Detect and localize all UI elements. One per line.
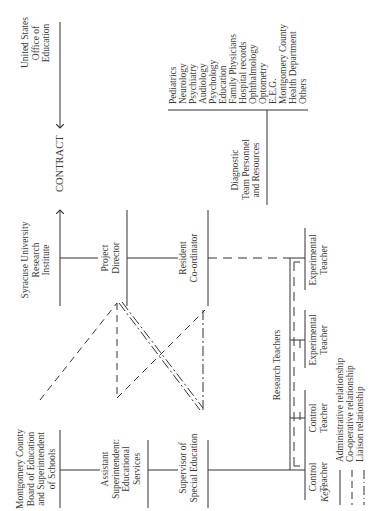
resource-item: E.E.G. (268, 24, 278, 104)
resource-item: Hospital records (238, 24, 248, 104)
usoe-label: United StatesOffice ofEducation (20, 18, 52, 68)
contract-label: CONTRACT (55, 137, 66, 192)
key-title: Key: (320, 481, 331, 505)
syracuse-label: Syracuse UniversityResearchInstitute (20, 220, 52, 300)
montgomery-label: Montgomery CountyBoard of Educationand S… (15, 426, 57, 511)
research-teachers-label: Research Teachers (272, 320, 283, 410)
teacher-label: ControlTeacher (308, 393, 329, 443)
resource-item: Education (218, 24, 228, 104)
teacher-label: ExperimentalTeacher (308, 228, 329, 292)
key-item: Administrative relationship (335, 358, 345, 462)
resource-item: Psychiatry (188, 24, 198, 104)
resource-item: Pediatrics (168, 24, 178, 104)
resource-item: Health Department (288, 24, 298, 104)
resource-item: Family Physicians (228, 24, 238, 104)
resource-item: Audiology (198, 24, 208, 104)
resource-item: Neurology (178, 24, 188, 104)
key-item: Liaison relationship (355, 358, 365, 462)
key-item: Co-operative relationship (345, 358, 355, 462)
resident-coordinator-label: ResidentCo-ordinator (178, 224, 199, 292)
resource-item: Others (298, 24, 308, 104)
resource-item: Optometry (258, 24, 268, 104)
project-director-label: ProjectDirector (100, 236, 121, 280)
resource-item: Psychology (208, 24, 218, 104)
diagnostic-label: DiagnosticTeam Personneland Resources (230, 140, 262, 200)
teacher-label: ExperimentalTeacher (308, 310, 329, 370)
resource-item: Montgomery County (278, 24, 288, 104)
key-legend: Administrative relationship Co-operative… (335, 358, 365, 462)
asst-supt-label: AssistantSuperintendent:EducationalServi… (100, 433, 142, 505)
resource-item: Ophthalmology (248, 24, 258, 104)
supervisor-label: Supervisor ofSpecial Education (178, 428, 199, 508)
diagnostic-resources-list: Pediatrics Neurology Psychiatry Audiolog… (168, 24, 308, 104)
